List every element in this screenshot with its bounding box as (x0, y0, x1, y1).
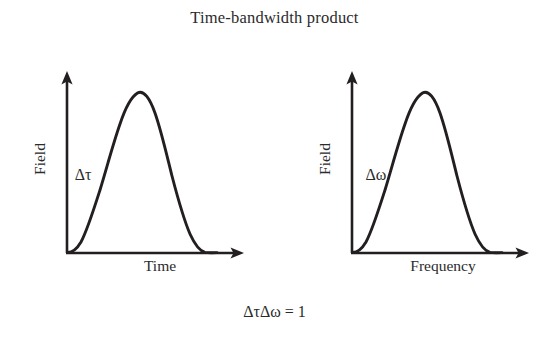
plot-panel-frequency-domain: Field Frequency Δω (293, 60, 543, 290)
delta-omega-annotation: Δω (351, 166, 401, 184)
figure-equation: ΔτΔω = 1 (0, 303, 549, 321)
y-axis-label: Field (316, 123, 334, 195)
plot-panel-time-domain: Field Time Δτ (8, 60, 258, 290)
x-axis-label: Frequency (363, 257, 523, 275)
y-axis-label: Field (31, 123, 49, 195)
figure-root: Time-bandwidth product Field Time Δτ (0, 0, 549, 338)
figure-title: Time-bandwidth product (0, 8, 549, 28)
x-axis-label: Time (100, 257, 220, 275)
delta-tau-annotation: Δτ (60, 166, 106, 184)
